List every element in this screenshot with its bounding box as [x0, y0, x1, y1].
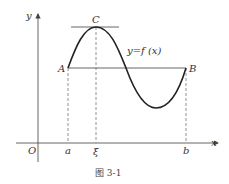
- origin-label: O: [28, 145, 36, 156]
- y-axis-label: y: [25, 10, 32, 21]
- rolle-theorem-diagram: y x O A B C y=f (x) a ξ b 图 3-1: [0, 0, 229, 184]
- point-c-label: C: [92, 14, 100, 25]
- tick-b-label: b: [183, 145, 189, 156]
- figure-caption: 图 3-1: [95, 168, 121, 178]
- x-axis-label: x: [211, 137, 217, 148]
- curve-f: [68, 27, 186, 108]
- tick-xi-label: ξ: [93, 146, 99, 157]
- tick-a-label: a: [65, 145, 71, 156]
- point-a-label: A: [57, 63, 65, 74]
- point-b-label: B: [188, 63, 196, 74]
- function-label: y=f (x): [126, 45, 161, 56]
